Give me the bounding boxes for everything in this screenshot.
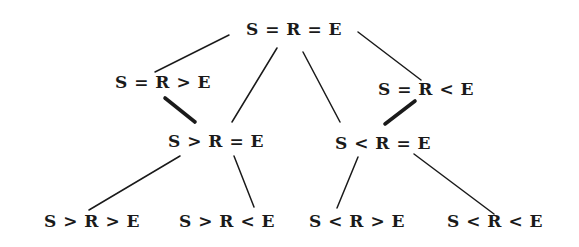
node-s-lt-r-lt-e: S < R < E <box>447 211 543 231</box>
edge-top-to-s-gt-req <box>232 48 277 122</box>
edge-s-gt-req-to-s-gt-r-lt-e <box>234 156 254 207</box>
edge-sreq-lt-e-to-s-lt-req-thick <box>385 101 415 124</box>
edge-s-lt-req-to-s-lt-r-gt-e <box>337 157 358 208</box>
node-s-gt-r-eq-e: S > R = E <box>168 131 264 151</box>
edge-top-to-sreq-gt-e <box>155 35 229 72</box>
node-s-gt-r-lt-e: S > R < E <box>179 211 275 231</box>
node-s-eq-r-gt-e: S = R > E <box>115 72 211 92</box>
node-s-lt-r-gt-e: S < R > E <box>309 211 405 231</box>
edge-s-gt-req-to-s-gt-r-gt-e <box>89 156 180 210</box>
edge-top-to-sreq-lt-e <box>358 32 421 80</box>
node-s-eq-r-lt-e: S = R < E <box>378 79 474 99</box>
lattice-diagram: S = R = E S = R > E S = R < E S > R = E … <box>0 0 579 247</box>
node-s-gt-r-gt-e: S > R > E <box>44 211 140 231</box>
node-top: S = R = E <box>246 19 342 39</box>
edge-s-lt-req-to-s-lt-r-lt-e <box>414 154 494 214</box>
node-s-lt-r-eq-e: S < R = E <box>335 133 431 153</box>
edge-top-to-s-lt-req <box>303 52 340 122</box>
edge-sreq-gt-e-to-s-gt-req-thick <box>165 98 195 122</box>
